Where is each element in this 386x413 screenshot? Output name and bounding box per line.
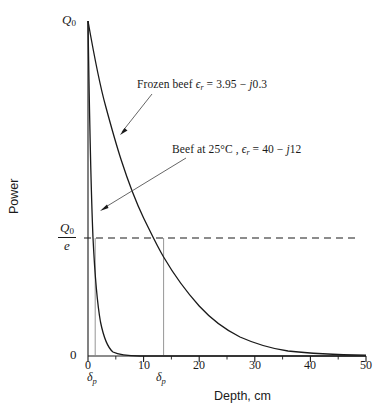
annotation-beef-25c: Beef at 25°C , ϵr = 40 − j12 bbox=[172, 144, 301, 157]
annotation-frozen-beef: Frozen beef ϵr = 3.95 − j0.3 bbox=[137, 79, 267, 92]
y-threshold-numerator-subscript: 0 bbox=[69, 226, 74, 236]
x-tick-label-40: 40 bbox=[297, 359, 323, 371]
annotation-frozen-tail: = 3.95 − bbox=[204, 78, 250, 90]
y-threshold-numerator: Q0 bbox=[58, 221, 76, 238]
x-tick-label-50: 50 bbox=[353, 359, 379, 371]
y-threshold-denominator: e bbox=[58, 238, 76, 252]
y-peak-label: Q0 bbox=[62, 13, 76, 28]
y-peak-subscript: 0 bbox=[71, 18, 76, 28]
delta-p-frozen-subscript: p bbox=[162, 376, 166, 386]
power-vs-depth-figure: Power Depth, cm Q0 Q0 e 0 0 10 20 30 40 … bbox=[0, 0, 386, 413]
delta-p-beef-subscript: p bbox=[93, 376, 97, 386]
y-axis-title: Power bbox=[8, 166, 21, 226]
annotation-beef-lead: Beef at 25°C , bbox=[172, 143, 242, 155]
y-peak-symbol: Q bbox=[62, 12, 71, 27]
delta-p-beef-label: δp bbox=[87, 371, 97, 385]
x-axis-title: Depth, cm bbox=[214, 390, 271, 403]
plot-canvas bbox=[0, 0, 386, 413]
annotation-beef-jvalue: 12 bbox=[290, 143, 302, 155]
annotation-beef-tail: = 40 − bbox=[250, 143, 287, 155]
annotation-frozen-lead: Frozen beef bbox=[137, 78, 196, 90]
y-threshold-numerator-symbol: Q bbox=[60, 220, 69, 235]
annotation-frozen-jvalue: 0.3 bbox=[253, 78, 268, 90]
y-threshold-label: Q0 e bbox=[58, 221, 76, 252]
frozen-beef-leader bbox=[122, 94, 152, 132]
x-tick-label-10: 10 bbox=[131, 359, 157, 371]
x-tick-label-20: 20 bbox=[186, 359, 212, 371]
frozen-beef-arrowhead bbox=[120, 128, 128, 135]
curve-beef-25c bbox=[88, 21, 366, 356]
x-tick-label-30: 30 bbox=[242, 359, 268, 371]
delta-p-frozen-label: δp bbox=[156, 371, 166, 385]
beef-25c-arrowhead bbox=[100, 205, 109, 212]
curve-frozen-beef bbox=[88, 21, 366, 355]
beef-25c-leader bbox=[104, 158, 186, 208]
